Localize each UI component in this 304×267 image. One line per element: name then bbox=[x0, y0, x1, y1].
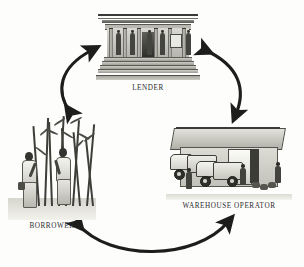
node-warehouse-operator[interactable]: WAREHOUSE OPERATOR bbox=[166, 118, 292, 214]
delivery-truck bbox=[196, 161, 242, 186]
connector-borrower-warehouse bbox=[78, 222, 228, 252]
warehouse-roof-ridge bbox=[176, 127, 280, 129]
farmer-legs bbox=[23, 182, 37, 208]
node-borrower[interactable]: BORROWER bbox=[8, 118, 96, 230]
building-column bbox=[123, 28, 127, 59]
node-label-lender: LENDER bbox=[96, 84, 200, 92]
farmer-satchel bbox=[18, 182, 25, 190]
building-column bbox=[154, 28, 158, 59]
cargo-sack bbox=[260, 184, 268, 190]
building-figure bbox=[130, 33, 135, 55]
warehouse-worker bbox=[275, 166, 281, 183]
cargo-sack bbox=[252, 182, 260, 188]
diagram-canvas: LENDER bbox=[0, 0, 304, 267]
building-figure bbox=[116, 33, 121, 55]
truck-wheel bbox=[200, 176, 211, 187]
lender-illustration bbox=[96, 8, 200, 82]
farmer-figure-right bbox=[52, 148, 78, 214]
connector-borrower-lender bbox=[62, 50, 92, 112]
building-column bbox=[137, 28, 141, 59]
borrower-illustration bbox=[8, 118, 96, 220]
farmer-head bbox=[59, 148, 67, 157]
connector-lender-warehouse bbox=[205, 50, 240, 114]
truck-wheel bbox=[227, 176, 238, 187]
building-plinth bbox=[96, 75, 200, 80]
node-label-warehouse-operator: WAREHOUSE OPERATOR bbox=[166, 202, 292, 210]
cane-leaf bbox=[70, 117, 83, 124]
building-step bbox=[98, 69, 198, 73]
building-window bbox=[170, 34, 182, 48]
farmer-legs bbox=[57, 179, 71, 205]
farmer-figure-left bbox=[18, 152, 44, 214]
building-figure bbox=[186, 33, 191, 55]
warehouse-worker bbox=[186, 172, 192, 189]
building-figure bbox=[160, 33, 165, 55]
cargo-sack bbox=[268, 182, 276, 188]
building-figure bbox=[147, 33, 152, 55]
truck-wheel bbox=[174, 169, 185, 180]
building-roofline-secondary bbox=[98, 18, 198, 19]
node-lender[interactable]: LENDER bbox=[96, 8, 200, 96]
building-column bbox=[109, 28, 113, 59]
warehouse-side-wall bbox=[250, 149, 259, 183]
warehouse-worker bbox=[240, 168, 246, 185]
node-label-borrower: BORROWER bbox=[8, 222, 96, 230]
building-roofline bbox=[98, 14, 198, 16]
warehouse-illustration bbox=[166, 118, 292, 200]
warehouse-yard-ground bbox=[166, 194, 292, 200]
